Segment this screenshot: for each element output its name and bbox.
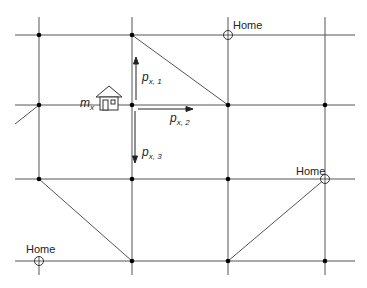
arrow-head-down-icon <box>133 156 138 163</box>
node <box>37 177 42 182</box>
path-label-1: px, 1 <box>142 71 162 83</box>
node <box>130 177 135 182</box>
node <box>37 103 42 108</box>
node <box>323 259 328 264</box>
arrow-head-right-icon <box>186 107 193 112</box>
road-diag-2 <box>15 105 39 124</box>
path-label-2: px, 2 <box>170 112 190 124</box>
house-icon <box>96 86 122 110</box>
node <box>226 103 231 108</box>
road-diag-4 <box>228 179 325 261</box>
agent-label: mx <box>80 97 94 109</box>
node <box>130 103 135 108</box>
home-label-right: Home <box>296 166 325 177</box>
node <box>130 33 135 38</box>
arrow-head-up-icon <box>134 57 139 64</box>
node <box>130 259 135 264</box>
node <box>226 259 231 264</box>
home-label-top: Home <box>233 20 262 31</box>
node <box>37 33 42 38</box>
node <box>226 177 231 182</box>
path-label-3: px, 3 <box>142 146 162 158</box>
home-label-bottom-left: Home <box>26 244 55 255</box>
node <box>323 103 328 108</box>
